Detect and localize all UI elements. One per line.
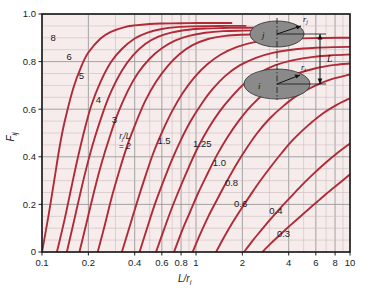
x-tick-label: 1: [193, 257, 198, 268]
parameter-annotation: rj/L= 2: [119, 131, 131, 151]
x-tick-label: 0.8: [174, 257, 187, 268]
inset-label-rj-sub: j: [305, 19, 308, 25]
y-tick-label: 0.2: [23, 199, 36, 210]
y-tick-label: 0.8: [23, 56, 36, 67]
p-slashL: /L: [122, 131, 130, 141]
curve-label-1.5: 1.5: [157, 135, 170, 146]
parameter-annotation-line2: = 2: [119, 141, 131, 151]
x-tick-label: 4: [286, 257, 291, 268]
curve-label-4: 4: [96, 94, 101, 105]
x-tick-label: 8: [332, 257, 337, 268]
curve-label-0.4: 0.4: [269, 205, 282, 216]
curve-label-1.25: 1.25: [193, 138, 212, 149]
x-tick-label: 6: [313, 257, 318, 268]
y-tick-label: 0.6: [23, 104, 36, 115]
curve-label-8: 8: [50, 32, 55, 43]
x-axis-title-text: L/ri: [178, 273, 192, 286]
x-tick-label: 0.6: [155, 257, 168, 268]
y-tick-label: 1.0: [23, 8, 36, 19]
y-axis-title-sub: ij: [11, 132, 19, 136]
curve-label-1.0: 1.0: [213, 157, 226, 168]
x-tick-label: 0.1: [35, 257, 48, 268]
curve-label-3: 3: [112, 114, 117, 125]
x-axis-title: L/ri: [178, 273, 192, 286]
curve-label-6: 6: [66, 51, 71, 62]
x-tick-label: 0.2: [82, 257, 95, 268]
curve-label-0.3: 0.3: [277, 228, 290, 239]
curve-label-5: 5: [79, 70, 84, 81]
inset-label-j: j: [261, 30, 265, 40]
y-tick-label: 0: [31, 246, 36, 257]
y-tick-label: 0.4: [23, 151, 36, 162]
view-factor-chart-figure: 0.10.20.40.60.8124681000.20.40.60.81.0L/…: [0, 0, 375, 297]
x-tick-label: 0.4: [128, 257, 141, 268]
curve-label-0.8: 0.8: [225, 177, 238, 188]
x-tick-label: 10: [345, 257, 356, 268]
curve-label-0.6: 0.6: [234, 198, 247, 209]
chart-svg: 0.10.20.40.60.8124681000.20.40.60.81.0L/…: [0, 0, 375, 297]
x-tick-label: 2: [240, 257, 245, 268]
inset-label-L: L: [326, 54, 332, 64]
